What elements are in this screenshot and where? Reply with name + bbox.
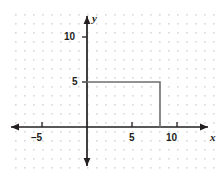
x-axis-tick-label-neg5: –5 (31, 133, 42, 143)
grid-dots (8, 12, 215, 170)
y-axis-tick-label-5: 5 (72, 77, 78, 87)
x-axis-name-label: x (210, 132, 216, 143)
y-axis-name-label: y (92, 13, 97, 24)
y-axis-tick-label-10: 10 (64, 32, 75, 42)
graph-screenshot: 10 5 –5 5 10 y x (0, 0, 223, 175)
x-axis-tick-label-10: 10 (166, 133, 177, 143)
x-axis-tick-label-5: 5 (129, 133, 135, 143)
coordinate-plane (0, 0, 223, 175)
